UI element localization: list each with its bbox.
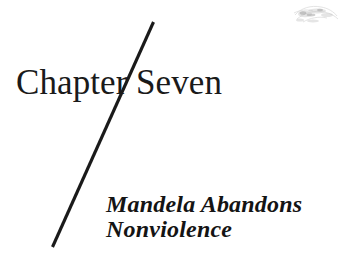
chapter-subtitle-line-1: Mandela Abandons bbox=[106, 192, 302, 217]
scan-smudge-icon bbox=[291, 1, 339, 29]
chapter-subtitle-line-2: Nonviolence bbox=[106, 217, 302, 242]
chapter-subtitle: Mandela Abandons Nonviolence bbox=[106, 192, 302, 241]
chapter-number-label: Seven bbox=[136, 64, 222, 102]
chapter-opening-page: Chapter Seven Mandela Abandons Nonviolen… bbox=[0, 0, 350, 267]
chapter-label: Chapter bbox=[16, 64, 128, 102]
